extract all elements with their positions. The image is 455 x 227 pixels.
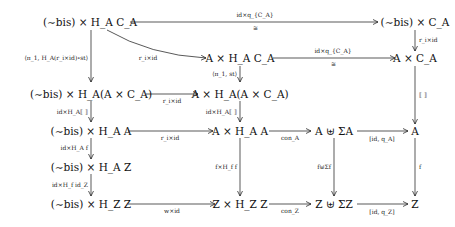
node-r3c3: A: [411, 126, 419, 137]
label-r3-h2: con_A: [281, 135, 299, 141]
label-r5-h3: [id, q_Z]: [369, 209, 394, 215]
label-top-iso: ≅: [253, 25, 258, 31]
node-r5c0: (∼bis) × H_Z Z: [51, 199, 131, 210]
node-r0c0: (∼bis) × H_A C_A: [43, 17, 137, 28]
label-r5-h1: w×id: [164, 208, 180, 214]
label-r1c3-down: ⟦ ⟧: [419, 92, 427, 98]
label-r1c1-down: ⟨π_1, st⟩: [212, 71, 237, 77]
label-r3-h1: r_i×id: [161, 135, 180, 141]
node-r3c2: A ⊎ ΣA: [315, 126, 353, 137]
label-r3c1-down: f×H_f f: [215, 164, 237, 170]
label-r1-h: id×q_{C_A}: [314, 48, 351, 54]
label-r3c0-down: id×H_A f: [61, 145, 88, 151]
node-r1c3: A × C_A: [393, 53, 437, 64]
node-r5c3: Z: [411, 199, 418, 210]
label-r3c3-down: f: [419, 164, 421, 170]
node-r3c1: A × H_A A: [212, 126, 268, 137]
label-curved: r_i×id: [139, 55, 158, 61]
node-r0c3: (∼bis) × C_A: [381, 17, 450, 28]
node-r4c0: (∼bis) × H_A Z: [51, 162, 132, 173]
label-r1-iso: ≅: [331, 61, 336, 67]
label-r4c0-down: id×H_f id_Z: [52, 182, 88, 188]
label-r3c2-down: f⊎Σf: [317, 164, 331, 170]
node-r3c0: (∼bis) × H_A A: [51, 126, 132, 137]
node-r1c1: A × H_A C_A: [205, 53, 274, 64]
node-r5c1: Z × H_Z Z: [212, 199, 267, 210]
label-top-h: id×q_{C_A}: [236, 12, 273, 18]
label-r5-h2: con_Z: [281, 208, 299, 214]
label-left-long: ⟨π_1, H_A(r_i×id)∘st⟩: [24, 55, 88, 61]
node-r2c1: A × H_A(A × C_A): [191, 89, 288, 100]
node-r5c2: Z ⊎ ΣZ: [315, 199, 353, 210]
label-r2c1-down: id×H_A⟦ ⟧: [206, 109, 237, 115]
commutative-diagram: (∼bis) × H_A C_A (∼bis) × C_A A × H_A C_…: [0, 0, 455, 227]
label-r0c3-down: r_i×id: [419, 37, 438, 43]
label-r2-h: r_i×id: [163, 98, 182, 104]
node-r2c0: (∼bis) × H_A(A × C_A): [30, 89, 152, 100]
label-r3-h3: [id, q_A]: [369, 136, 394, 142]
label-r2c0-down: id×H_A⟦ ⟧: [57, 109, 88, 115]
